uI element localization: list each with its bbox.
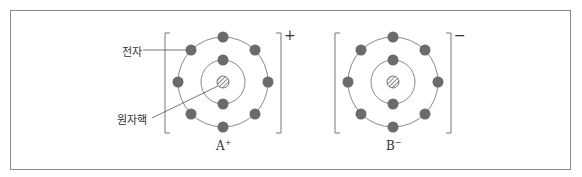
- charge-b: −: [454, 27, 466, 43]
- right-bracket-a: [276, 33, 281, 133]
- ion-label-a: A+: [216, 138, 231, 153]
- electron-label: 전자: [122, 43, 142, 59]
- nucleus-label: 원자핵: [117, 111, 147, 127]
- right-bracket-b: [446, 33, 451, 133]
- left-bracket-b: [335, 33, 340, 133]
- nucleus-b: [387, 76, 399, 88]
- left-bracket-a: [165, 33, 170, 133]
- nucleus-leader-line: [152, 86, 218, 118]
- nucleus-a: [217, 76, 229, 88]
- atom-a: [165, 32, 281, 134]
- charge-a: +: [284, 27, 296, 43]
- ion-label-b: B−: [386, 138, 402, 153]
- atom-b: [335, 32, 451, 134]
